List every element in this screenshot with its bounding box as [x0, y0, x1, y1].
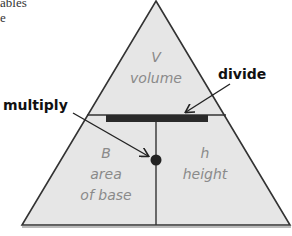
multiply-callout: multiply	[3, 97, 68, 113]
height-label: height	[183, 166, 228, 182]
division-bar	[106, 115, 208, 122]
divide-callout: divide	[218, 66, 266, 82]
base-area-label-line2: of base	[80, 187, 131, 203]
base-area-symbol: B	[101, 145, 111, 161]
base-area-label-line1: area	[90, 166, 122, 182]
volume-symbol: V	[151, 49, 162, 65]
volume-formula-diagram: ables e V volume B area of base h height…	[0, 0, 292, 236]
volume-label: volume	[130, 70, 182, 86]
height-symbol: h	[201, 145, 210, 161]
multiply-dot	[151, 155, 162, 166]
